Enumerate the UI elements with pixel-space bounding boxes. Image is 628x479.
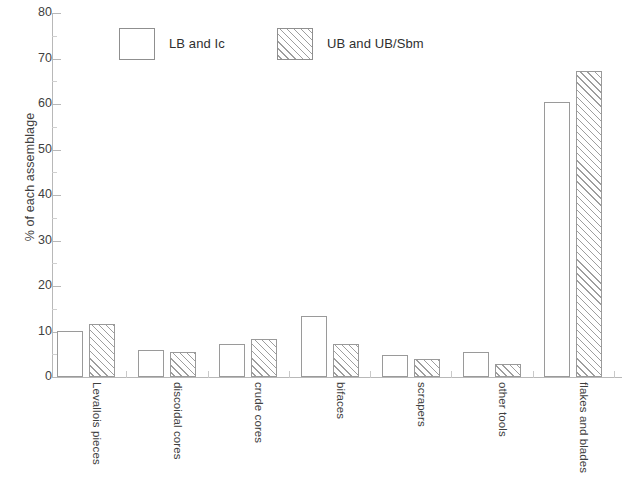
y-tick-label-70: 70 <box>8 51 52 65</box>
legend-swatch-ub-and-ub-sbm <box>277 28 313 60</box>
y-tick-label-50: 50 <box>8 142 52 156</box>
x-label-discoidal-cores: discoidal cores <box>172 382 184 479</box>
x-label-scrapers: scrapers <box>416 382 428 479</box>
y-tick-label-10: 10 <box>8 324 52 338</box>
x-tick <box>289 371 290 378</box>
y-tick-0 <box>52 377 61 378</box>
x-label-other-tools: other tools <box>497 382 509 479</box>
bar-other-tools-lb-and-ic <box>463 352 489 377</box>
y-tick-label-30: 30 <box>8 233 52 247</box>
y-tick-label-40: 40 <box>8 187 52 201</box>
x-tick <box>451 371 452 378</box>
bar-scrapers-ub-and-ub-sbm <box>414 359 440 377</box>
bar-crude-cores-lb-and-ic <box>219 344 245 377</box>
legend-label-1: UB and UB/Sbm <box>327 36 424 51</box>
bar-flakes-and-blades-ub-and-ub-sbm <box>576 71 602 377</box>
bar-crude-cores-ub-and-ub-sbm <box>251 339 277 377</box>
bar-other-tools-ub-and-ub-sbm <box>495 364 521 377</box>
bar-flakes-and-blades-lb-and-ic <box>544 102 570 377</box>
bar-levallois-pieces-ub-and-ub-sbm <box>89 324 115 377</box>
bar-bifaces-ub-and-ub-sbm <box>333 344 359 377</box>
bar-levallois-pieces-lb-and-ic <box>57 331 83 377</box>
x-label-crude-cores: crude cores <box>253 382 265 479</box>
legend-label-0: LB and Ic <box>169 36 225 51</box>
bar-discoidal-cores-lb-and-ic <box>138 350 164 377</box>
bar-scrapers-lb-and-ic <box>382 355 408 377</box>
x-label-flakes-and-blades: flakes and blades <box>578 382 590 479</box>
y-tick-label-0: 0 <box>8 369 52 383</box>
x-tick <box>533 371 534 378</box>
plot-area <box>53 13 622 377</box>
bar-bifaces-lb-and-ic <box>301 316 327 377</box>
x-tick <box>208 371 209 378</box>
y-tick-label-20: 20 <box>8 278 52 292</box>
bar-chart: % of each assemblage 01020304050607080 L… <box>0 0 628 479</box>
x-tick <box>370 371 371 378</box>
bar-discoidal-cores-ub-and-ub-sbm <box>170 352 196 377</box>
y-tick-label-80: 80 <box>8 5 52 19</box>
x-axis-line <box>52 377 622 378</box>
x-label-levallois-pieces: Levallois pieces <box>91 382 103 479</box>
x-tick <box>126 371 127 378</box>
y-tick-label-60: 60 <box>8 96 52 110</box>
x-label-bifaces: bifaces <box>335 382 347 479</box>
legend-swatch-lb-and-ic <box>119 28 155 60</box>
x-tick <box>614 371 615 378</box>
